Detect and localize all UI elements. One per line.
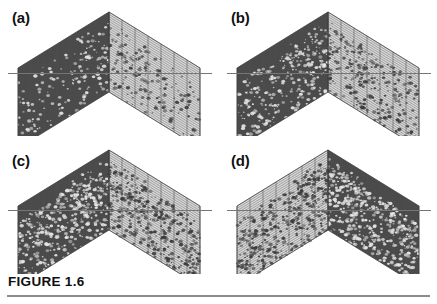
figure-caption: FIGURE 1.6: [0, 274, 437, 304]
surface-plot-a: [0, 0, 218, 136]
panel-label-c: (c): [12, 152, 30, 169]
panel-a: (a): [0, 0, 218, 136]
surface-plot-d: [219, 138, 437, 274]
surface-plot-c: [0, 138, 218, 274]
reference-line-b: [227, 73, 431, 74]
panel-label-a: (a): [12, 9, 30, 26]
panel-grid: (a) (b) (c) (d): [0, 0, 437, 272]
caption-divider: [7, 295, 430, 297]
panel-label-d: (d): [231, 152, 250, 169]
surface-plot-b: [219, 0, 437, 136]
reference-line-a: [8, 73, 212, 74]
reference-line-c: [8, 210, 212, 211]
panel-b: (b): [219, 0, 437, 136]
figure-container: (a) (b) (c) (d) FIGURE 1.6: [0, 0, 437, 304]
panel-d: (d): [219, 138, 437, 274]
panel-c: (c): [0, 138, 218, 274]
figure-caption-label: FIGURE 1.6: [8, 274, 85, 289]
reference-line-d: [227, 210, 431, 211]
panel-label-b: (b): [231, 9, 250, 26]
